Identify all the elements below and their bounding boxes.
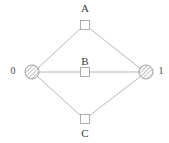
terminal-node-0[interactable] xyxy=(25,65,39,79)
terminal-node-1[interactable] xyxy=(139,65,153,79)
terminal-label-1: 1 xyxy=(155,66,167,76)
diagram-canvas: 0 1 A B C xyxy=(0,0,169,143)
node-label-c: C xyxy=(75,128,95,139)
graph-svg xyxy=(0,0,169,143)
edge-c-to-terminal1 xyxy=(89,76,141,116)
edge-a-to-terminal1 xyxy=(89,28,141,69)
edge-terminal0-to-c xyxy=(37,76,81,116)
terminal-label-0: 0 xyxy=(7,66,19,76)
square-node-b[interactable] xyxy=(81,68,90,77)
node-label-a: A xyxy=(75,3,95,14)
square-node-a[interactable] xyxy=(81,21,90,30)
node-label-b: B xyxy=(75,56,95,67)
square-node-c[interactable] xyxy=(81,115,90,124)
